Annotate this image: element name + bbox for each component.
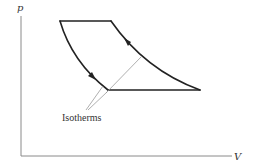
- cycle: [60, 21, 200, 90]
- p-axis-label: p: [17, 2, 24, 13]
- right-curve-line: [111, 21, 200, 90]
- isotherms-label: Isotherms: [62, 112, 102, 123]
- axes: p V: [17, 2, 243, 162]
- isotherm-line: [106, 57, 141, 93]
- isotherm-leader-right: [88, 92, 107, 110]
- pv-diagram: p V Isotherms: [0, 0, 253, 168]
- left-curve-line: [60, 21, 108, 90]
- v-axis-label: V: [234, 151, 243, 162]
